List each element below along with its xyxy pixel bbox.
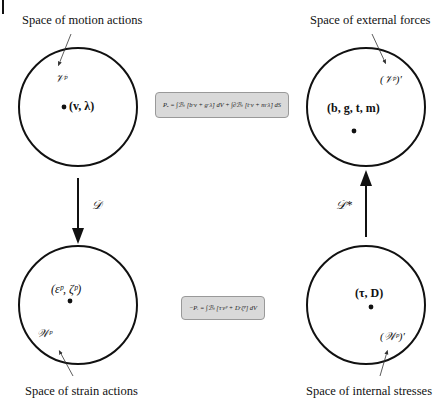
internal-space-symbol: (𝒲ᵖ)′ [380, 330, 405, 343]
external-power-equation: Pₑ = ∫ℬₜ [b·v + g·λ̇] dV + ∫∂ℬₜ [t·v + m… [155, 92, 289, 118]
strain-space-symbol: 𝒲ᵖ [37, 327, 52, 340]
motion-point: (v, λ) [69, 99, 94, 114]
internal-power-equation: −Pᵢ = ∫ℬₜ [τ·εᵖ + D·ζ̇ᵖ] dV [181, 296, 265, 320]
external-point: (b, g, t, m) [327, 101, 380, 116]
external-space-label: Space of external forces [310, 13, 430, 28]
strain-space-label: Space of strain actions [25, 384, 138, 399]
external-space-symbol: (𝒱ᵖ)′ [380, 73, 402, 86]
motion-space-label: Space of motion actions [22, 13, 142, 28]
motion-space-symbol: 𝒱ᵖ [55, 72, 67, 85]
strain-point: (εᵖ, ζᵖ) [51, 282, 81, 297]
internal-space-circle [307, 246, 425, 364]
internal-space-label: Space of internal stresses [306, 384, 432, 399]
operator-d-adjoint: 𝒟* [336, 198, 352, 213]
internal-point: (τ, D) [355, 286, 383, 301]
diagram-lines [0, 0, 445, 410]
strain-space-circle [19, 246, 137, 364]
operator-d: 𝒟 [92, 198, 102, 213]
